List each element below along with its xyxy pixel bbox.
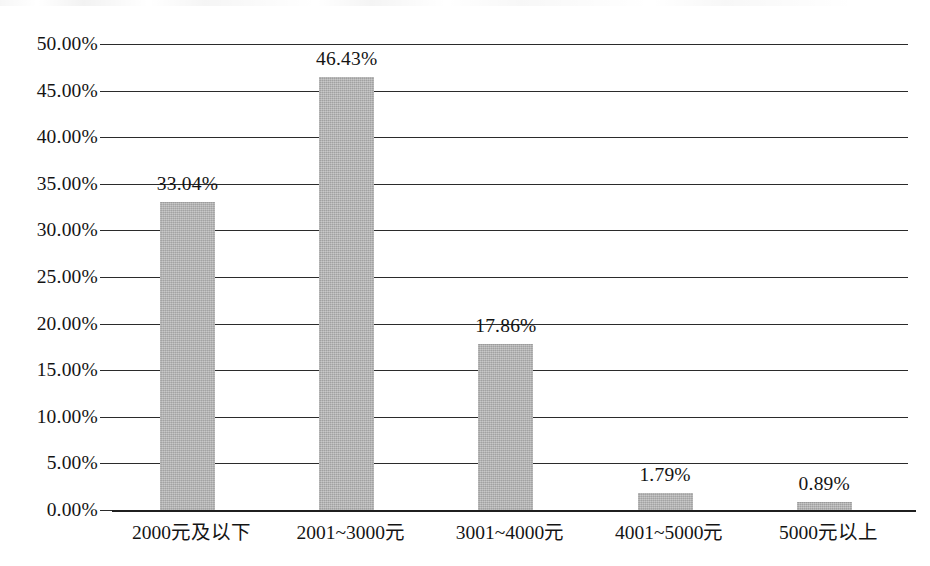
bar bbox=[160, 202, 215, 510]
y-axis-tick-mark bbox=[100, 417, 112, 418]
y-axis: 50.00%45.00%40.00%35.00%30.00%25.00%20.0… bbox=[0, 0, 106, 566]
y-axis-tick-label: 10.00% bbox=[37, 407, 98, 427]
scan-artifact bbox=[0, 0, 930, 6]
gridline bbox=[112, 230, 908, 231]
bar-value-label: 0.89% bbox=[764, 474, 884, 494]
y-axis-tick-label: 15.00% bbox=[37, 360, 98, 380]
gridline bbox=[112, 137, 908, 138]
y-axis-tick-label: 0.00% bbox=[47, 500, 98, 520]
x-axis-category-label: 3001~4000元 bbox=[430, 521, 590, 544]
x-axis-category-label: 2000元及以下 bbox=[112, 521, 272, 544]
bar bbox=[797, 502, 852, 510]
y-axis-tick-label: 30.00% bbox=[37, 220, 98, 240]
x-axis-baseline bbox=[112, 510, 916, 512]
y-axis-tick-mark bbox=[100, 184, 112, 185]
y-axis-tick-label: 50.00% bbox=[37, 34, 98, 54]
bar bbox=[319, 77, 374, 510]
x-axis-category-label: 2001~3000元 bbox=[271, 521, 431, 544]
gridline bbox=[112, 91, 908, 92]
x-axis-category-label: 5000元以上 bbox=[748, 521, 908, 544]
y-axis-tick-mark bbox=[100, 463, 112, 464]
y-axis-tick-mark bbox=[100, 370, 112, 371]
y-axis-tick-mark bbox=[100, 44, 112, 45]
y-axis-tick-label: 20.00% bbox=[37, 314, 98, 334]
gridline bbox=[112, 44, 908, 45]
y-axis-tick-mark bbox=[100, 91, 112, 92]
y-axis-tick-label: 35.00% bbox=[37, 174, 98, 194]
bar bbox=[478, 344, 533, 510]
y-axis-tick-mark bbox=[100, 230, 112, 231]
bar-value-label: 33.04% bbox=[128, 174, 248, 194]
y-axis-tick-label: 25.00% bbox=[37, 267, 98, 287]
bar bbox=[638, 493, 693, 510]
y-axis-tick-label: 5.00% bbox=[47, 453, 98, 473]
x-axis-category-label: 4001~5000元 bbox=[589, 521, 749, 544]
y-axis-tick-label: 40.00% bbox=[37, 127, 98, 147]
y-axis-tick-mark bbox=[100, 137, 112, 138]
bar-value-label: 46.43% bbox=[287, 49, 407, 69]
x-axis: 2000元及以下2001~3000元3001~4000元4001~5000元50… bbox=[112, 521, 908, 561]
y-axis-tick-mark bbox=[100, 277, 112, 278]
bar-value-label: 1.79% bbox=[605, 465, 725, 485]
y-axis-tick-label: 45.00% bbox=[37, 81, 98, 101]
bar-value-label: 17.86% bbox=[446, 316, 566, 336]
y-axis-tick-mark bbox=[100, 324, 112, 325]
gridline bbox=[112, 277, 908, 278]
y-axis-tick-mark bbox=[100, 510, 112, 511]
bar-chart-figure: 50.00%45.00%40.00%35.00%30.00%25.00%20.0… bbox=[0, 0, 930, 566]
plot-area: 33.04%46.43%17.86%1.79%0.89% bbox=[112, 44, 908, 510]
